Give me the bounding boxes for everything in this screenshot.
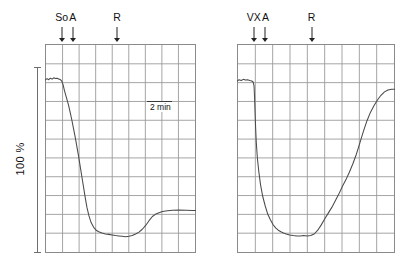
arrow-down-icon [70,38,76,42]
arrow-down-icon [262,38,268,42]
marker-a: A [53,11,93,44]
marker-label: A [262,11,269,23]
marker-r: R [292,11,332,44]
y-axis-cap-top [34,67,41,68]
marker-a: A [245,11,285,44]
arrow-down-icon [114,38,120,42]
marker-label: A [69,11,76,23]
left-panel [45,44,196,253]
y-axis-scale-bar [37,67,44,253]
arrow-down-icon [309,38,315,42]
time-scale-label: 2 min [149,102,172,112]
right-panel-trace [237,44,395,253]
marker-r: R [97,11,137,44]
left-panel-trace [45,44,196,253]
marker-label: R [308,11,316,23]
y-axis-cap-bottom [34,252,41,253]
marker-label: R [113,11,121,23]
y-axis-scale-line [37,67,38,253]
right-panel [237,44,395,253]
figure-root: 100 % 2 min SoARVXAR [0,0,417,269]
y-axis-label: 100 % [14,136,26,182]
